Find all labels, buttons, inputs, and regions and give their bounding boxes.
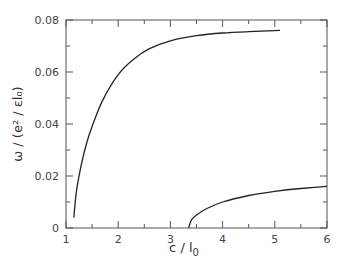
data-curves [74,30,327,228]
x-tick-label: 5 [271,233,278,246]
y-axis-label: ω / (e² / εl₀) [10,86,25,161]
chart: 123456 00.020.040.060.08 c / l0 ω / (e² … [0,0,343,271]
x-axis-label-subscript: 0 [193,247,199,258]
x-tick-label: 6 [324,233,331,246]
y-tick-label: 0.04 [35,118,60,131]
x-tick-labels: 123456 [63,233,331,246]
x-axis-label-main: c / l [169,240,192,255]
y-tick-label: 0.02 [35,170,60,183]
axis-ticks [66,20,327,228]
y-tick-label: 0.06 [35,66,60,79]
upper-branch-curve [74,30,280,217]
x-tick-label: 1 [63,233,70,246]
y-tick-label: 0 [52,222,59,235]
y-tick-labels: 00.020.040.060.08 [35,14,60,235]
x-axis-label: c / l0 [169,240,199,258]
plot-frame [66,20,327,228]
lower-branch-curve [189,186,327,228]
x-tick-label: 4 [219,233,226,246]
x-tick-label: 2 [115,233,122,246]
y-tick-label: 0.08 [35,14,60,27]
